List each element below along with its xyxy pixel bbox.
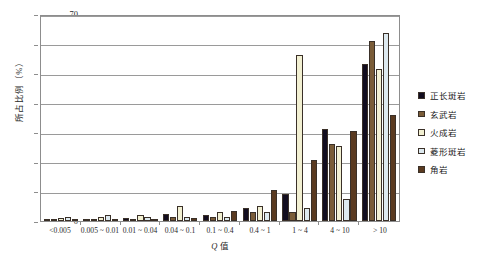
bar [350, 131, 356, 221]
legend-swatch-icon [418, 148, 425, 155]
x-axis-tick-mark [80, 221, 81, 225]
bar [177, 206, 183, 221]
bar [296, 55, 302, 221]
bar [170, 217, 176, 221]
legend-item-label: 角岩 [430, 163, 449, 175]
bar [264, 212, 270, 221]
x-axis-tick-mark [199, 221, 200, 225]
bar [51, 219, 57, 221]
bar [44, 219, 50, 221]
bar-group [280, 16, 320, 221]
y-axis-title: 所占比例（%） [12, 44, 24, 136]
bar [58, 218, 64, 221]
x-axis-tick-labels: <0.0050.005 ~ 0.010.01 ~ 0.040.04 ~ 0.10… [40, 226, 400, 235]
bar [250, 212, 256, 221]
x-axis-tick-label: 0.01 ~ 0.04 [120, 226, 160, 235]
legend-item[interactable]: 角岩 [418, 160, 467, 179]
legend-swatch-icon [418, 166, 425, 173]
legend-item-label: 火成岩 [430, 126, 458, 138]
legend-swatch-icon [418, 129, 425, 136]
bar-group [41, 16, 81, 221]
x-axis-tick-mark [318, 221, 319, 225]
y-axis-tick-mark [34, 15, 38, 16]
bar [203, 215, 209, 222]
bar [376, 69, 382, 221]
x-axis-title-rest: 值 [218, 241, 229, 251]
bar [191, 218, 197, 221]
bar [72, 219, 78, 221]
bar [144, 217, 150, 221]
x-axis-tick-label: 0.1 ~ 0.4 [200, 226, 240, 235]
chart-figure: 所占比例（%） 010203040506070 <0.0050.005 ~ 0.… [0, 0, 482, 259]
bar [217, 212, 223, 221]
legend-item[interactable]: 火成岩 [418, 123, 467, 142]
x-axis-tick-label: 0.04 ~ 0.1 [160, 226, 200, 235]
bar [343, 199, 349, 221]
bar [243, 208, 249, 221]
y-axis-tick-mark [34, 45, 38, 46]
y-axis-tick-mark [34, 104, 38, 105]
bar [369, 41, 375, 221]
bar-group [121, 16, 161, 221]
bar [163, 214, 169, 221]
bar [65, 217, 71, 221]
bar [137, 215, 143, 221]
bar [257, 206, 263, 221]
legend-item[interactable]: 玄武岩 [418, 105, 467, 124]
bar-group [200, 16, 240, 221]
y-axis-tick-mark [34, 163, 38, 164]
y-axis-tick-mark [34, 222, 38, 223]
x-axis-tick-label: 0.005 ~ 0.01 [80, 226, 120, 235]
y-axis-tick-mark [34, 74, 38, 75]
bar-group [81, 16, 121, 221]
legend-item[interactable]: 正长斑岩 [418, 86, 467, 105]
x-axis-tick-label: <0.005 [40, 226, 80, 235]
bar [210, 217, 216, 221]
plot-area [40, 15, 400, 222]
x-axis-tick-mark [239, 221, 240, 225]
bar [271, 190, 277, 221]
bar [224, 217, 230, 221]
bar [105, 215, 111, 221]
bar [112, 219, 118, 221]
legend-item[interactable]: 菱形斑岩 [418, 142, 467, 161]
bar [184, 217, 190, 221]
y-axis-tick-mark [34, 133, 38, 134]
x-axis-tick-mark [159, 221, 160, 225]
bar [304, 208, 310, 221]
bar [362, 64, 368, 221]
bar-group [359, 16, 399, 221]
bar [83, 219, 89, 221]
bar [289, 212, 295, 221]
bar [336, 146, 342, 221]
bar [322, 129, 328, 221]
bar [329, 144, 335, 221]
x-axis-tick-label: 4 ~ 10 [320, 226, 360, 235]
x-axis-tick-mark [358, 221, 359, 225]
x-axis-tick-mark [120, 221, 121, 225]
legend-item-label: 菱形斑岩 [430, 145, 467, 157]
bar-group [319, 16, 359, 221]
bar [231, 211, 237, 221]
bar [390, 115, 396, 221]
legend-item-label: 玄武岩 [430, 108, 458, 120]
bar-group [240, 16, 280, 221]
bar [91, 219, 97, 221]
bar [282, 194, 288, 221]
bar [383, 33, 389, 221]
y-axis-tick-mark [34, 192, 38, 193]
bar [98, 217, 104, 221]
x-axis-tick-label: 1 ~ 4 [280, 226, 320, 235]
bar [130, 219, 136, 221]
x-axis-tick-mark [279, 221, 280, 225]
bar [123, 218, 129, 221]
legend-swatch-icon [418, 92, 425, 99]
bar-groups [41, 16, 399, 221]
x-axis-title: Q 值 [40, 239, 400, 251]
x-axis-tick-label: 0.4 ~ 1 [240, 226, 280, 235]
x-axis-tick-label: > 10 [360, 226, 400, 235]
bar-group [160, 16, 200, 221]
bar [151, 219, 157, 221]
bar [311, 160, 317, 221]
legend: 正长斑岩玄武岩火成岩菱形斑岩角岩 [418, 86, 467, 179]
